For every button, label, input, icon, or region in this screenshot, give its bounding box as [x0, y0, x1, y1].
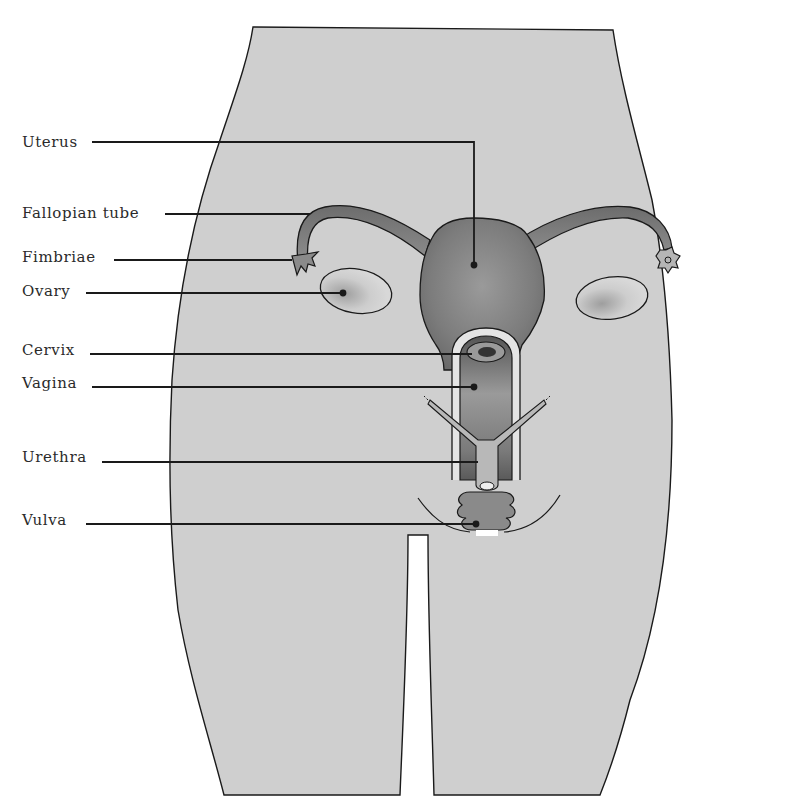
label-vulva: Vulva — [22, 511, 67, 529]
label-ovary: Ovary — [22, 282, 70, 300]
label-cervix: Cervix — [22, 341, 75, 359]
label-fimbriae: Fimbriae — [22, 248, 96, 266]
label-vagina: Vagina — [22, 374, 77, 392]
anatomy-diagram: Uterus Fallopian tube Fimbriae Ovary Cer… — [0, 0, 811, 798]
label-urethra: Urethra — [22, 448, 87, 466]
diagram-artwork — [0, 0, 811, 798]
label-fallopian-tube: Fallopian tube — [22, 204, 139, 222]
label-uterus: Uterus — [22, 133, 78, 151]
